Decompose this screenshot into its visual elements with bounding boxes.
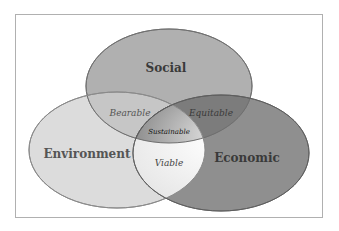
environment-label: Environment [43, 147, 131, 161]
bearable-label: Bearable [109, 108, 151, 118]
sustainable-label: Sustainable [148, 128, 190, 136]
equitable-label: Equitable [188, 108, 233, 118]
economic-label: Economic [214, 151, 280, 165]
social-label: Social [146, 61, 187, 75]
viable-label: Viable [155, 158, 184, 168]
venn-diagram: Social Environment Economic Bearable Equ… [0, 0, 339, 231]
